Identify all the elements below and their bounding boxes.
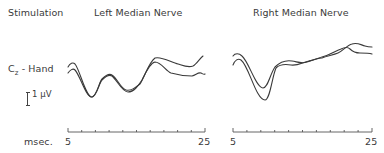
left-trace-2: [68, 62, 205, 97]
right-x-axis: [233, 128, 372, 132]
left-x-axis: [68, 128, 205, 132]
left-trace-1: [68, 56, 203, 97]
right-trace-2: [233, 48, 372, 101]
waveform-plot: [0, 0, 384, 153]
